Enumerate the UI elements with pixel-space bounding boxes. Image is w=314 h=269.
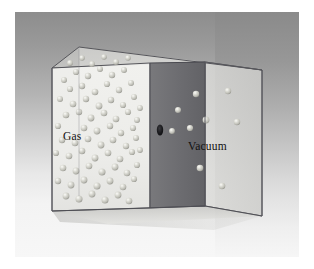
partition-hole-icon (157, 124, 163, 135)
molecule (115, 192, 122, 199)
molecule (94, 128, 101, 135)
figure-free-expansion: Gas Vacuum (0, 0, 314, 269)
molecule (197, 165, 204, 172)
molecule (83, 96, 89, 102)
molecule (79, 148, 86, 155)
molecule (102, 197, 109, 204)
molecule (85, 73, 91, 79)
molecule (67, 86, 73, 92)
molecule (96, 103, 103, 110)
molecule (113, 59, 119, 65)
molecule (187, 125, 193, 131)
molecule (92, 89, 99, 96)
molecule (109, 72, 115, 78)
molecule (128, 80, 134, 86)
box-scene (0, 0, 314, 269)
molecule (203, 117, 210, 124)
molecule (225, 88, 231, 94)
molecule (53, 150, 59, 156)
molecule (110, 137, 117, 144)
molecule (118, 130, 124, 136)
molecule (129, 149, 135, 155)
molecule (85, 136, 92, 143)
molecule (104, 81, 110, 87)
molecule (126, 198, 133, 205)
molecule (68, 182, 75, 189)
molecule (121, 67, 127, 73)
molecule (131, 176, 137, 182)
box-face-right (205, 62, 262, 216)
molecule (61, 77, 67, 83)
molecule (92, 155, 99, 162)
molecule (219, 183, 226, 190)
molecule (101, 110, 108, 117)
molecule (108, 97, 114, 103)
molecule (67, 60, 73, 66)
molecule (137, 147, 143, 153)
molecule (79, 83, 85, 89)
molecule (94, 183, 101, 190)
label-vacuum: Vacuum (188, 140, 227, 152)
molecule (107, 123, 113, 129)
molecule (193, 91, 199, 97)
molecule (137, 105, 143, 111)
molecule (70, 101, 77, 108)
molecule (112, 164, 119, 171)
molecule (113, 116, 120, 123)
molecule (130, 125, 136, 131)
molecule (169, 128, 175, 134)
molecule (175, 107, 181, 113)
molecule (73, 69, 79, 75)
molecule (120, 184, 127, 191)
molecule (79, 55, 85, 61)
molecule (124, 170, 131, 177)
molecule (76, 196, 83, 203)
molecule (55, 123, 61, 129)
molecule (116, 87, 122, 93)
molecule (120, 102, 126, 108)
molecule (131, 94, 137, 100)
molecule (57, 96, 63, 102)
molecule (125, 109, 131, 115)
molecule (234, 119, 240, 125)
molecule (89, 191, 96, 198)
molecule (117, 156, 124, 163)
molecule (81, 177, 88, 184)
partition-wall (150, 62, 205, 208)
molecule (66, 153, 73, 160)
molecule (125, 55, 131, 61)
molecule (99, 169, 106, 176)
molecule (63, 193, 70, 200)
molecule (101, 54, 107, 60)
molecule (86, 163, 93, 170)
molecule (105, 150, 112, 157)
molecule (63, 112, 70, 119)
molecule (97, 66, 103, 72)
molecule (60, 165, 67, 172)
molecule (134, 117, 140, 123)
molecule (107, 178, 114, 185)
molecule (55, 178, 61, 184)
molecule (123, 143, 129, 149)
molecule (73, 168, 80, 175)
label-gas: Gas (63, 130, 82, 142)
molecule (134, 162, 140, 168)
molecule (88, 115, 95, 122)
molecule (98, 142, 105, 149)
molecule (89, 61, 95, 67)
molecule (133, 135, 139, 141)
